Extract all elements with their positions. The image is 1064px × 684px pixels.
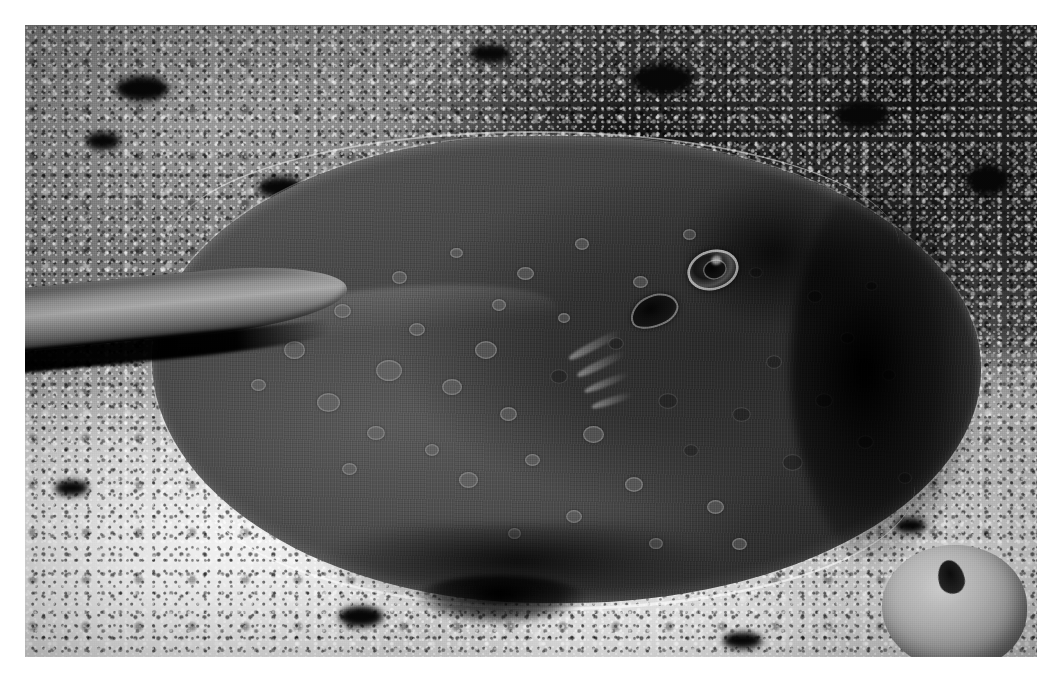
- ocellus-spot: [251, 379, 266, 391]
- photograph: [25, 25, 1037, 657]
- ocellus-spot: [550, 369, 568, 384]
- ocellus-spot: [583, 426, 604, 443]
- ocellus-spot: [425, 444, 439, 455]
- ocellus-spot: [625, 477, 643, 492]
- disc-cast-shadow-right: [790, 154, 1037, 584]
- ocellus-spot: [392, 271, 407, 283]
- substrate-blotch: [835, 101, 890, 129]
- ocellus-spot: [683, 444, 699, 457]
- substrate-blotch: [470, 44, 510, 63]
- ocellus-spot: [525, 454, 540, 466]
- ocellus-spot: [442, 379, 462, 395]
- ocellus-spot: [766, 355, 782, 368]
- image-canvas: Stingray camouflaged on coral rubble sea…: [0, 0, 1064, 684]
- ocellus-spot: [376, 360, 402, 381]
- substrate-blotch: [116, 76, 169, 101]
- ocellus-spot: [459, 472, 478, 488]
- ocellus-spot: [317, 393, 340, 412]
- stingray: [152, 136, 982, 604]
- ocellus-spot: [500, 407, 517, 421]
- ocellus-spot: [492, 299, 506, 310]
- substrate-blotch: [632, 63, 693, 95]
- ocellus-spot: [517, 267, 534, 281]
- disc-cast-shadow-bottom: [268, 524, 766, 646]
- ocellus-spot: [575, 238, 589, 249]
- ocellus-spot: [633, 276, 648, 288]
- ocellus-spot: [658, 393, 678, 409]
- substrate-blotch: [86, 132, 120, 150]
- ocellus-spot: [409, 323, 425, 336]
